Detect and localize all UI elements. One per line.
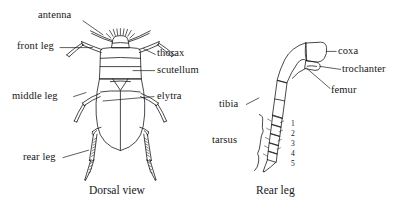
label-thorax: thorax <box>157 48 184 59</box>
leader-trochanter <box>320 66 341 69</box>
caption-rear-leg: Rear leg <box>256 185 295 197</box>
dorsal-leader-lines <box>60 21 155 158</box>
label-tarsus: tarsus <box>212 135 237 146</box>
tarsus-brace <box>255 115 264 171</box>
leg-tibia <box>272 81 287 119</box>
diagram-artwork <box>0 0 409 207</box>
tarsus-segment-number: 2 <box>291 130 295 138</box>
label-tibia: tibia <box>219 99 238 110</box>
label-middle-leg: middle leg <box>12 91 58 102</box>
leg-tarsus-segments <box>263 115 282 172</box>
label-trochanter: trochanter <box>342 64 386 75</box>
tarsus-segment-number: 5 <box>291 160 295 168</box>
tarsus-segment-number: 3 <box>291 140 295 148</box>
label-femur: femur <box>331 85 357 96</box>
label-rear-leg: rear leg <box>23 152 56 163</box>
leg-femur <box>277 43 306 83</box>
leader-antenna <box>83 21 103 35</box>
tarsus-segment-number: 1 <box>291 120 295 128</box>
label-coxa: coxa <box>338 46 358 57</box>
leader-tibia <box>246 98 258 104</box>
leader-rear-leg <box>63 150 89 157</box>
leg-leader-lines <box>246 51 340 104</box>
beetle-pronotum <box>100 48 141 67</box>
label-front-leg: front leg <box>17 41 54 52</box>
leader-middle-leg <box>74 93 86 97</box>
label-elytra: elytra <box>157 91 182 102</box>
leg-coxa <box>305 42 326 62</box>
label-antenna: antenna <box>38 10 71 21</box>
leg-tarsus-fringe <box>263 119 283 156</box>
tarsus-segment-number: 4 <box>291 150 295 158</box>
beetle-scutellum <box>99 67 141 91</box>
figure-canvas: antenna front leg middle leg rear leg th… <box>0 0 409 207</box>
leader-femur <box>307 68 330 88</box>
label-scutellum: scutellum <box>157 65 199 76</box>
beetle-head <box>112 36 130 48</box>
leader-thorax <box>143 49 155 55</box>
head-bristles <box>106 29 134 38</box>
caption-dorsal-view: Dorsal view <box>89 185 145 197</box>
